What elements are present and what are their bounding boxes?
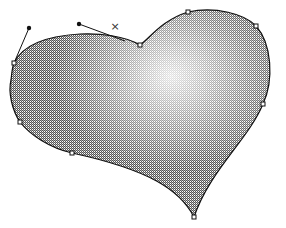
drawing-canvas[interactable]: × [0,0,286,228]
anchor-point[interactable] [261,102,265,106]
cursor-x-icon: × [110,20,119,33]
anchor-point[interactable] [192,215,196,219]
anchor-point[interactable] [186,10,190,14]
anchor-point[interactable] [138,43,142,47]
anchor-point[interactable] [18,120,22,124]
handle-knob[interactable] [77,22,81,26]
anchor-point[interactable] [70,151,74,155]
anchor-point[interactable] [12,61,16,65]
handle-knob[interactable] [27,26,31,30]
heart-highlight [10,10,270,217]
anchor-point[interactable] [254,24,258,28]
